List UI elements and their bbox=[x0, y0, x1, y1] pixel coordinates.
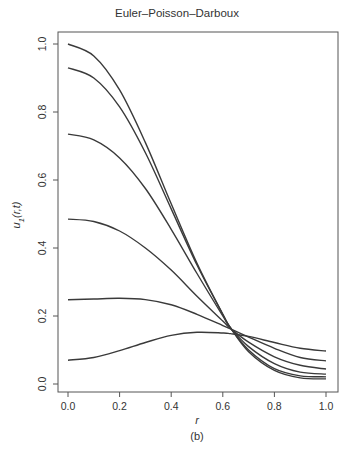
y-tick-label: 0.0 bbox=[36, 377, 48, 392]
series-line-curve-1 bbox=[68, 44, 326, 379]
x-tick-label: 0.2 bbox=[112, 400, 127, 412]
y-axis-label-main: u bbox=[10, 222, 22, 228]
x-tick-label: 0.4 bbox=[164, 400, 179, 412]
y-tick-label: 0.4 bbox=[36, 241, 48, 256]
series-line-curve-2 bbox=[68, 68, 326, 377]
x-tick-label: 0.8 bbox=[267, 400, 282, 412]
series-line-curve-5 bbox=[68, 298, 326, 361]
line-chart: 0.00.20.40.60.81.00.00.20.40.60.81.0 bbox=[0, 0, 354, 458]
y-axis-label-args: (r,t) bbox=[10, 201, 22, 218]
x-tick-label: 0.0 bbox=[61, 400, 76, 412]
x-tick-label: 0.6 bbox=[215, 400, 230, 412]
y-axis-label-sub: 1 bbox=[17, 218, 26, 222]
y-tick-label: 0.2 bbox=[36, 309, 48, 324]
plot-frame bbox=[58, 32, 338, 392]
y-axis-label: u1(r,t) bbox=[10, 201, 25, 228]
series-line-curve-3 bbox=[68, 134, 326, 374]
x-tick-label: 1.0 bbox=[319, 400, 334, 412]
series-line-curve-4 bbox=[68, 219, 326, 369]
series-line-curve-6 bbox=[68, 332, 326, 360]
figure-caption: (b) bbox=[0, 430, 354, 442]
x-axis-label: r bbox=[0, 414, 354, 426]
y-tick-label: 0.8 bbox=[36, 105, 48, 120]
y-tick-label: 0.6 bbox=[36, 173, 48, 188]
y-tick-label: 1.0 bbox=[36, 37, 48, 52]
